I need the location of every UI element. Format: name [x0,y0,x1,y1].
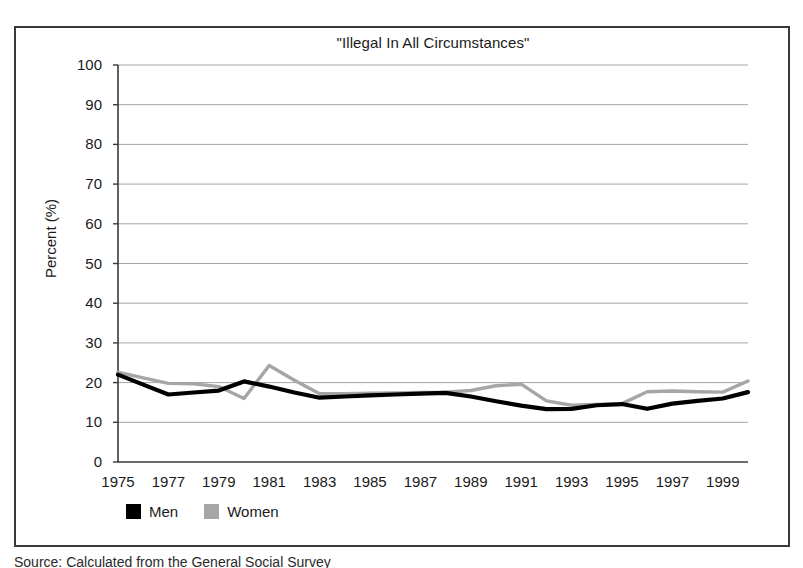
series-line-women [118,366,748,406]
legend-swatch-women [204,504,219,519]
figure-container: "Illegal In All Circumstances" Percent (… [0,0,803,568]
legend-swatch-men [126,504,141,519]
plot-area [0,0,803,568]
gridlines [118,65,748,422]
legend-entry-men[interactable]: Men [126,503,178,520]
legend-label: Women [227,503,278,520]
source-note: Source: Calculated from the General Soci… [14,554,331,568]
chart-legend: MenWomen [126,503,279,520]
legend-entry-women[interactable]: Women [204,503,278,520]
data-series-lines [118,366,748,410]
legend-label: Men [149,503,178,520]
